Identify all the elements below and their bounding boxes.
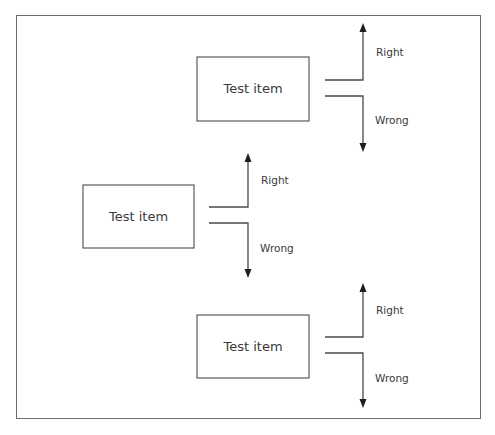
test-item-label: Test item bbox=[222, 339, 282, 354]
wrong-branch: Wrong bbox=[325, 353, 409, 408]
right-label: Right bbox=[261, 174, 289, 186]
arrow-down-icon bbox=[245, 269, 252, 278]
test-item-label: Test item bbox=[108, 209, 168, 224]
arrow-up-icon bbox=[360, 23, 367, 32]
test-item-node-2: Test item Right Wrong bbox=[83, 153, 294, 278]
wrong-branch: Wrong bbox=[209, 223, 294, 278]
right-label: Right bbox=[376, 46, 404, 58]
arrow-down-icon bbox=[360, 399, 367, 408]
test-item-label: Test item bbox=[222, 81, 282, 96]
right-path-line bbox=[325, 290, 363, 337]
right-label: Right bbox=[376, 304, 404, 316]
wrong-path-line bbox=[209, 223, 248, 270]
wrong-path-line bbox=[325, 353, 363, 400]
wrong-path-line bbox=[325, 96, 363, 144]
right-branch: Right bbox=[209, 153, 289, 207]
test-item-node-1: Test item Right Wrong bbox=[197, 23, 409, 152]
wrong-label: Wrong bbox=[375, 114, 409, 126]
arrow-up-icon bbox=[360, 283, 367, 292]
right-path-line bbox=[325, 30, 363, 80]
wrong-branch: Wrong bbox=[325, 96, 409, 152]
arrow-down-icon bbox=[360, 143, 367, 152]
wrong-label: Wrong bbox=[260, 242, 294, 254]
wrong-label: Wrong bbox=[375, 372, 409, 384]
right-path-line bbox=[209, 160, 248, 207]
right-branch: Right bbox=[325, 23, 404, 80]
arrow-up-icon bbox=[245, 153, 252, 162]
diagram-canvas: Test item Right Wrong Test item Right Wr… bbox=[0, 0, 495, 435]
right-branch: Right bbox=[325, 283, 404, 337]
test-item-node-3: Test item Right Wrong bbox=[197, 283, 409, 408]
